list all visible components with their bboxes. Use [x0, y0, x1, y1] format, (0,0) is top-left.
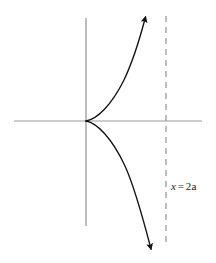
curve-upper-branch: [86, 17, 146, 121]
asymptote-label: x=2a: [171, 180, 197, 192]
math-figure: x=2a: [0, 0, 216, 263]
plot-canvas: [0, 0, 216, 263]
asymptote-label-equals: =: [176, 180, 186, 192]
curve-lower-branch: [86, 121, 151, 249]
asymptote-label-value: 2a: [186, 180, 197, 192]
